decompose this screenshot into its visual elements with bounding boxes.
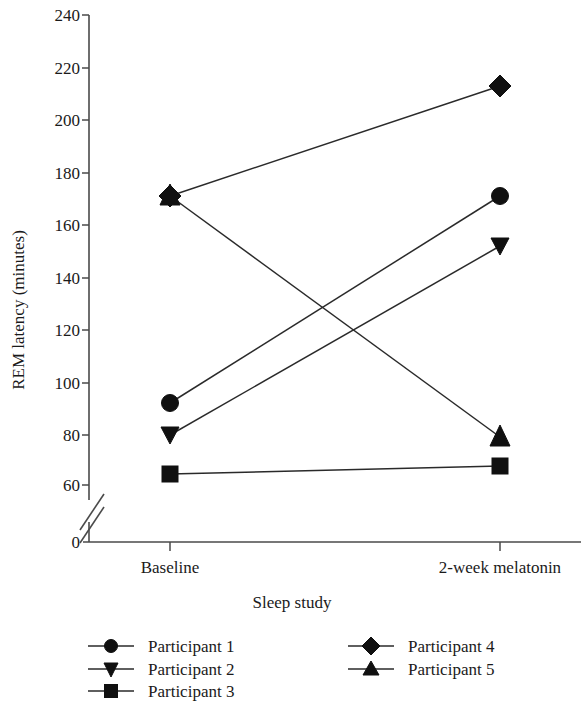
y-tick-label: 140 — [55, 269, 81, 288]
legend-label: Participant 1 — [148, 637, 234, 656]
triangle-up-marker-icon — [490, 425, 510, 446]
rem-latency-line-chart: REM latency (minutes) 240 220 200 180 16… — [0, 0, 585, 705]
y-axis-title: REM latency (minutes) — [9, 230, 28, 390]
y-tick-label: 100 — [55, 374, 81, 393]
circle-marker-icon — [492, 188, 509, 205]
chart-legend: Participant 1 Participant 2 Participant … — [88, 637, 495, 701]
y-tick-label: 240 — [55, 6, 81, 25]
y-tick-labels: 240 220 200 180 160 140 120 100 80 60 0 — [55, 6, 81, 552]
legend-item-participant-3: Participant 3 — [88, 682, 234, 701]
square-marker-icon — [162, 466, 178, 482]
y-tick-label: 180 — [55, 164, 81, 183]
legend-item-participant-1: Participant 1 — [88, 637, 234, 656]
y-tick-label: 200 — [55, 111, 81, 130]
triangle-down-marker-icon — [104, 663, 118, 677]
series-lines — [170, 86, 500, 474]
y-tick-label: 0 — [72, 533, 81, 552]
series-line-participant-4 — [170, 86, 500, 196]
diamond-marker-icon — [489, 75, 511, 97]
legend-item-participant-4: Participant 4 — [348, 637, 495, 656]
triangle-down-marker-icon — [491, 238, 509, 255]
legend-item-participant-5: Participant 5 — [348, 660, 494, 679]
y-tick-marks — [82, 15, 89, 485]
series-line-participant-5 — [170, 196, 500, 437]
y-tick-label: 60 — [63, 476, 80, 495]
x-tick-label-melatonin: 2-week melatonin — [439, 558, 562, 577]
series-line-participant-3 — [170, 466, 500, 474]
axis-break-icon — [80, 494, 104, 543]
x-tick-label-baseline: Baseline — [141, 558, 200, 577]
y-tick-label: 160 — [55, 216, 81, 235]
triangle-up-marker-icon — [363, 661, 379, 675]
square-marker-icon — [105, 685, 118, 698]
circle-marker-icon — [162, 395, 179, 412]
circle-marker-icon — [105, 640, 118, 653]
series-line-participant-1 — [170, 196, 500, 403]
legend-item-participant-2: Participant 2 — [88, 660, 234, 679]
legend-label: Participant 3 — [148, 682, 234, 701]
y-tick-label: 120 — [55, 321, 81, 340]
legend-label: Participant 2 — [148, 660, 234, 679]
x-axis-title: Sleep study — [253, 593, 332, 612]
triangle-down-marker-icon — [161, 427, 179, 444]
diamond-marker-icon — [362, 637, 380, 655]
legend-label: Participant 4 — [408, 637, 495, 656]
series-line-participant-2 — [170, 246, 500, 435]
series-markers — [159, 75, 511, 482]
y-tick-label: 220 — [55, 59, 81, 78]
y-tick-label: 80 — [63, 426, 80, 445]
legend-label: Participant 5 — [408, 660, 494, 679]
square-marker-icon — [492, 458, 508, 474]
